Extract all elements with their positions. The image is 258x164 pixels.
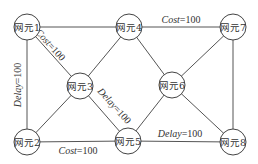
- edge-label-n5-n8: Delay=100: [157, 128, 203, 139]
- node-label: 网元8: [220, 137, 246, 148]
- edge-label-n3-n5: Delay=100: [95, 85, 134, 126]
- node-n7: 网元7: [220, 14, 246, 40]
- edge-label-n2-n5: Cost=100: [59, 145, 98, 156]
- node-label: 网元7: [220, 22, 246, 33]
- edge-n2-n5: [27, 141, 128, 142]
- node-label: 网元1: [14, 22, 40, 33]
- node-n5: 网元5: [115, 128, 141, 154]
- node-n2: 网元2: [14, 129, 40, 155]
- node-label: 网元2: [14, 137, 40, 148]
- node-n1: 网元1: [14, 14, 40, 40]
- node-label: 网元3: [67, 81, 93, 92]
- edge-label-n4-n7: Cost=100: [162, 14, 201, 25]
- node-label: 网元4: [116, 22, 142, 33]
- node-n8: 网元8: [220, 129, 246, 155]
- node-n3: 网元3: [67, 73, 93, 99]
- node-label: 网元5: [115, 136, 141, 147]
- network-diagram: Cost=100 Delay=100 Cost=100 Delay=100 Co…: [0, 0, 258, 164]
- diagram-svg: Cost=100 Delay=100 Cost=100 Delay=100 Co…: [0, 0, 258, 164]
- node-n4: 网元4: [116, 14, 142, 40]
- node-n6: 网元6: [159, 72, 185, 98]
- node-label: 网元6: [159, 80, 185, 91]
- edge-label-n1-n2: Delay=100: [12, 63, 23, 109]
- edge-n5-n8: [128, 141, 233, 142]
